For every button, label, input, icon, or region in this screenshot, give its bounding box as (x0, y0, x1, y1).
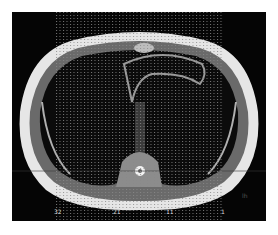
scale-label-21: 21 (113, 208, 121, 215)
chest-mri-slice (12, 12, 266, 221)
side-marker: lh (242, 192, 247, 199)
scale-label-1: 1 (221, 208, 225, 215)
scale-label-32: 32 (54, 208, 62, 215)
dotted-grid-overlay (56, 12, 224, 221)
scale-label-11: 11 (166, 208, 174, 215)
mri-image-frame: 32 21 11 1 lh (12, 12, 266, 221)
